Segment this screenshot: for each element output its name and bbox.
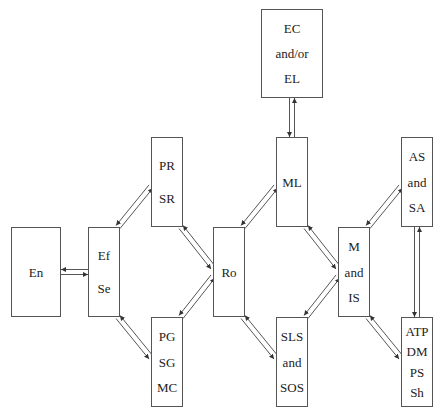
node-pgsg: PGSGMC: [151, 317, 183, 407]
arrow: [245, 188, 278, 229]
node-sls: SLSandSOS: [276, 317, 308, 407]
node-label: SG: [159, 356, 176, 369]
node-assa: ASandSA: [401, 137, 433, 227]
node-ecel: ECand/orEL: [261, 9, 323, 98]
arrow: [183, 278, 215, 319]
node-ro: Ro: [213, 227, 245, 317]
arrow: [179, 229, 211, 270]
node-label: IS: [348, 291, 360, 304]
node-label: PR: [159, 159, 175, 172]
node-label: EC: [284, 22, 301, 35]
arrow: [183, 225, 215, 266]
node-efse: EfSe: [88, 227, 120, 317]
node-label: and/or: [275, 47, 308, 60]
node-label: AS: [409, 150, 426, 163]
node-label: and: [408, 176, 427, 189]
arrow: [120, 315, 153, 356]
node-label: and: [345, 266, 364, 279]
node-label: ATP: [405, 325, 428, 338]
arrow: [245, 315, 278, 356]
node-label: SA: [409, 201, 426, 214]
connector-arrows: [0, 0, 446, 420]
arrow: [241, 319, 274, 360]
arrow: [370, 188, 403, 229]
node-label: PS: [410, 366, 424, 379]
arrow: [179, 275, 211, 316]
node-prsr: PRSR: [151, 137, 183, 227]
arrow: [366, 319, 399, 360]
node-label: En: [29, 266, 43, 279]
arrow: [304, 275, 336, 316]
node-label: EL: [284, 72, 300, 85]
arrow: [366, 185, 399, 226]
arrow: [241, 185, 274, 226]
node-label: DM: [407, 345, 428, 358]
node-en: En: [11, 227, 61, 317]
flow-diagram: EnEfSePRSRPGSGMCRoECand/orELMLSLSandSOSM…: [0, 0, 446, 420]
node-label: MC: [157, 381, 177, 394]
node-label: M: [348, 240, 360, 253]
node-label: and: [283, 356, 302, 369]
arrow: [370, 315, 403, 356]
node-ml: ML: [276, 137, 308, 227]
node-mis: MandIS: [338, 227, 370, 317]
arrow: [116, 185, 149, 226]
node-label: SLS: [281, 330, 303, 343]
node-label: SR: [159, 192, 175, 205]
arrow: [308, 225, 340, 266]
arrow: [116, 319, 149, 360]
node-label: Se: [98, 282, 111, 295]
node-label: Sh: [410, 386, 424, 399]
node-label: Ro: [221, 266, 236, 279]
node-atp: ATPDMPSSh: [401, 317, 433, 407]
node-label: PG: [159, 330, 176, 343]
arrow: [120, 188, 153, 229]
arrow: [304, 229, 336, 270]
node-label: Ef: [98, 249, 110, 262]
node-label: SOS: [280, 381, 304, 394]
node-label: ML: [282, 176, 302, 189]
arrow: [308, 278, 340, 319]
